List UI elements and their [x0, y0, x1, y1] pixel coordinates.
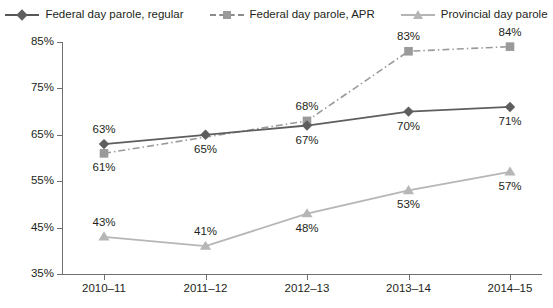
x-tick-label: 2014–15	[475, 283, 545, 295]
series-layer	[0, 0, 553, 308]
square-marker-icon	[100, 149, 109, 158]
legend-item-federal-regular: Federal day parole, regular	[5, 8, 183, 22]
y-tick	[57, 88, 62, 89]
y-tick-label: 75%	[14, 82, 54, 94]
diamond-marker-icon	[200, 130, 210, 140]
data-label: 63%	[81, 124, 127, 136]
x-tick-label: 2013–14	[374, 283, 444, 295]
y-tick-label: 65%	[14, 129, 54, 141]
diamond-marker-icon	[5, 8, 39, 22]
x-tick	[307, 275, 308, 280]
line-chart: Federal day parole, regular Federal day …	[0, 0, 553, 308]
data-label: 57%	[487, 181, 533, 193]
legend-label-provincial: Provincial day parole	[441, 9, 548, 21]
y-axis-line	[62, 42, 63, 275]
x-tick-label: 2010–11	[69, 283, 139, 295]
diamond-marker-icon	[99, 139, 109, 149]
diamond-marker-icon	[403, 106, 413, 116]
x-tick	[409, 275, 410, 280]
chart-legend: Federal day parole, regular Federal day …	[0, 4, 553, 26]
data-label: 48%	[284, 223, 330, 235]
data-label: 41%	[183, 226, 229, 238]
y-tick	[57, 181, 62, 182]
triangle-marker-icon	[200, 241, 211, 250]
y-tick-label: 85%	[14, 36, 54, 48]
triangle-marker-icon	[98, 231, 109, 240]
triangle-marker-icon	[403, 185, 414, 194]
triangle-marker-icon	[301, 208, 312, 217]
y-tick	[57, 274, 62, 275]
data-label: 65%	[183, 144, 229, 156]
legend-item-provincial: Provincial day parole	[401, 8, 548, 22]
data-label: 71%	[487, 116, 533, 128]
diamond-marker-icon	[505, 102, 515, 112]
data-label: 84%	[487, 27, 533, 39]
series-line	[104, 172, 510, 246]
y-tick-label: 35%	[14, 268, 54, 280]
y-tick	[57, 42, 62, 43]
x-tick-label: 2012–13	[272, 283, 342, 295]
y-tick-label: 45%	[14, 222, 54, 234]
series-provincial	[98, 166, 515, 249]
y-tick	[57, 135, 62, 136]
data-label: 43%	[81, 217, 127, 229]
data-label: 61%	[81, 162, 127, 174]
data-label: 83%	[386, 31, 432, 43]
x-tick	[206, 275, 207, 280]
legend-label-federal-apr: Federal day parole, APR	[250, 9, 375, 21]
legend-item-federal-apr: Federal day parole, APR	[210, 8, 375, 22]
triangle-marker-icon	[504, 166, 515, 175]
triangle-marker-icon	[401, 8, 435, 22]
data-label: 67%	[284, 135, 330, 147]
x-tick	[104, 275, 105, 280]
x-tick-label: 2011–12	[171, 283, 241, 295]
y-tick-label: 55%	[14, 175, 54, 187]
square-marker-icon	[303, 117, 312, 126]
diamond-marker-icon	[302, 120, 312, 130]
data-label: 70%	[386, 121, 432, 133]
square-marker-icon	[210, 8, 244, 22]
square-marker-icon	[506, 42, 515, 51]
y-tick	[57, 228, 62, 229]
data-label: 53%	[386, 199, 432, 211]
x-axis-line	[62, 274, 542, 275]
data-label: 68%	[284, 101, 330, 113]
x-tick	[510, 275, 511, 280]
square-marker-icon	[404, 47, 413, 56]
legend-label-federal-regular: Federal day parole, regular	[45, 9, 183, 21]
